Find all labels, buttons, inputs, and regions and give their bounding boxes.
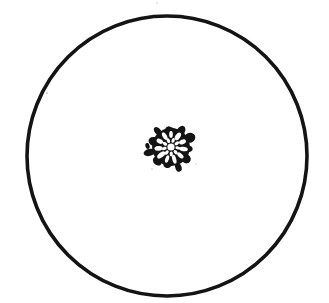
faint-speck-top [156,2,157,3]
faint-speck-lower-left [151,168,152,169]
figure-container: Circular field of view containing a sing… [0,0,329,303]
specimen-central-lumen [167,143,174,150]
illustration-canvas [0,0,329,303]
specimen-chamber [169,131,173,138]
faint-speck-upper-left [46,92,48,94]
faint-speck-lower-right [195,163,196,164]
